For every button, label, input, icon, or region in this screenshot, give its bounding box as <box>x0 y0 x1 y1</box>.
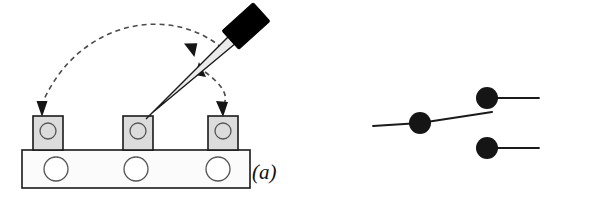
terminal-post-center-hole <box>130 123 146 139</box>
panel-a-mechanical-drawing: (a) <box>0 0 302 206</box>
dashed-arc-left-arrowhead <box>37 101 48 117</box>
pole-terminal-dot <box>409 112 431 134</box>
dashed-arc-right-arrowhead-bottom <box>216 101 228 117</box>
lever-contact-arrowhead <box>182 40 198 56</box>
terminal-post-left <box>33 116 63 150</box>
base-plate-hole-left <box>44 157 68 181</box>
base-plate-hole-center <box>124 157 148 181</box>
terminal-post-center <box>123 116 153 150</box>
dashed-arc-right-path <box>205 72 225 104</box>
terminal-post-left-hole <box>40 123 56 139</box>
terminal-post-right-hole <box>215 123 231 139</box>
terminal-post-right <box>208 116 238 150</box>
panel-a-caption: (a) <box>252 160 277 185</box>
base-plate-hole-right <box>206 157 230 181</box>
spdt-symbol-svg <box>302 0 604 206</box>
lower-throw-terminal-dot <box>476 137 498 159</box>
dashed-arc-left-path <box>42 24 222 104</box>
upper-throw-terminal-dot <box>476 87 498 109</box>
panel-b-schematic-symbol: SPDT (b) <box>302 0 604 206</box>
figure-spdt-switch: (a) SPDT (b) <box>0 0 604 206</box>
